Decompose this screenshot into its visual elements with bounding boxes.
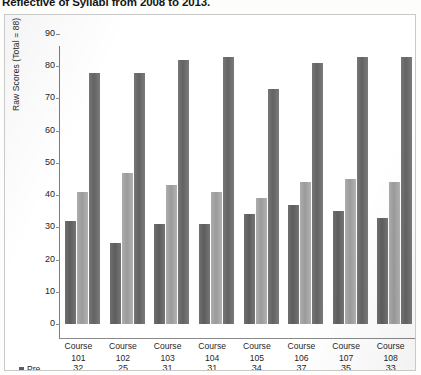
bar-time-2 bbox=[134, 73, 145, 324]
bar-pre bbox=[377, 218, 388, 324]
bar-time-2 bbox=[268, 89, 279, 324]
x-axis-category-label: Course108 bbox=[364, 341, 416, 364]
y-axis-tick-label: 80 bbox=[33, 60, 55, 70]
y-axis-tick-label: 40 bbox=[33, 189, 55, 199]
bar-group bbox=[377, 34, 412, 324]
y-axis-tick-mark bbox=[56, 131, 60, 132]
y-axis-tick-mark bbox=[56, 227, 60, 228]
bar-group bbox=[244, 34, 279, 324]
chart-container: Raw Scores (Total = 88) 9080706050403020… bbox=[4, 14, 416, 371]
bar-group bbox=[333, 34, 368, 324]
bar-pre bbox=[110, 243, 121, 324]
bar-time-2 bbox=[178, 60, 189, 324]
y-axis-tick-label: 20 bbox=[33, 254, 55, 264]
y-axis-tick-mark bbox=[56, 66, 60, 67]
y-axis-tick-label: 50 bbox=[33, 157, 55, 167]
y-axis-tick-mark bbox=[56, 98, 60, 99]
table-cell: 33 bbox=[364, 363, 416, 371]
y-axis-tick-mark bbox=[56, 324, 60, 325]
y-axis-tick-label: 30 bbox=[33, 221, 55, 231]
y-axis-tick-mark bbox=[56, 195, 60, 196]
y-axis-tick-mark bbox=[56, 292, 60, 293]
y-axis-label: Raw Scores (Total = 88) bbox=[11, 14, 21, 111]
y-axis-tick-label: 0 bbox=[33, 318, 55, 328]
bar-group bbox=[65, 34, 100, 324]
bar-time-2 bbox=[89, 73, 100, 324]
bar-group bbox=[288, 34, 323, 324]
bar-time-1 bbox=[122, 173, 133, 324]
bar-time-2 bbox=[357, 57, 368, 324]
bar-time-1 bbox=[389, 182, 400, 324]
bar-pre bbox=[154, 224, 165, 324]
y-axis-tick-label: 90 bbox=[33, 28, 55, 38]
bar-group bbox=[199, 34, 234, 324]
y-axis-tick-mark bbox=[56, 34, 60, 35]
bar-pre bbox=[244, 214, 255, 324]
bar-time-1 bbox=[300, 182, 311, 324]
bar-pre bbox=[199, 224, 210, 324]
bar-time-1 bbox=[256, 198, 267, 324]
document-title-line: Reflective of Syllabi from 2008 to 2013. bbox=[2, 0, 210, 10]
legend-label-pre: Pre bbox=[27, 364, 40, 371]
y-axis-tick-mark bbox=[56, 260, 60, 261]
y-axis-tick-label: 60 bbox=[33, 125, 55, 135]
x-axis-line bbox=[59, 338, 416, 339]
bar-group bbox=[110, 34, 145, 324]
bar-pre bbox=[65, 221, 76, 324]
bar-pre bbox=[288, 205, 299, 324]
bar-time-2 bbox=[223, 57, 234, 324]
bar-time-2 bbox=[401, 57, 412, 324]
legend-swatch-pre-icon bbox=[19, 367, 24, 372]
bar-time-2 bbox=[312, 63, 323, 324]
bar-group bbox=[154, 34, 189, 324]
y-axis-tick-label: 70 bbox=[33, 92, 55, 102]
bar-time-1 bbox=[77, 192, 88, 324]
bar-time-1 bbox=[166, 185, 177, 324]
legend-item-pre: Pre bbox=[19, 364, 40, 371]
y-axis-line bbox=[59, 46, 60, 339]
bar-time-1 bbox=[345, 179, 356, 324]
bar-time-1 bbox=[211, 192, 222, 324]
y-axis-tick-mark bbox=[56, 163, 60, 164]
bar-pre bbox=[333, 211, 344, 324]
y-axis-tick-label: 10 bbox=[33, 286, 55, 296]
